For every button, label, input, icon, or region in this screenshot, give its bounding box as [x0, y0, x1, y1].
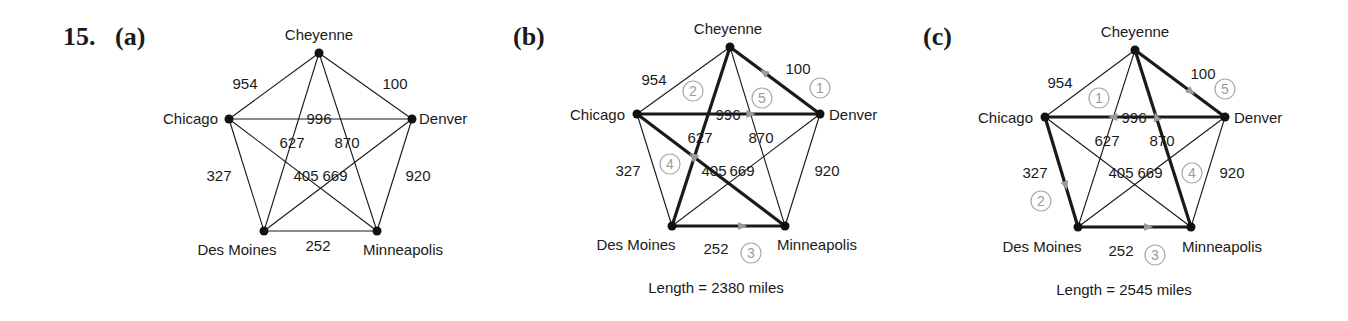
node-des-moines	[1074, 223, 1083, 232]
edge-weight: 870	[1149, 132, 1174, 149]
weight-labels: 954100996627870327920405669252	[206, 75, 430, 254]
edge-weight: 920	[405, 167, 430, 184]
node-chicago	[1041, 113, 1050, 122]
edge-weight: 954	[641, 71, 666, 88]
node-label-des-moines: Des Moines	[596, 236, 675, 253]
edge-weight: 996	[1121, 109, 1146, 126]
node-des-moines	[668, 222, 677, 231]
step-number: 4	[666, 156, 674, 172]
step-number: 2	[689, 83, 697, 99]
node-label-chicago: Chicago	[978, 109, 1033, 126]
nodes: CheyenneChicagoDenverDes MoinesMinneapol…	[163, 26, 467, 258]
node-chicago	[633, 110, 642, 119]
edge-weight: 669	[729, 162, 754, 179]
edge-weight: 920	[1219, 164, 1244, 181]
edge-weight: 669	[322, 167, 347, 184]
edge-weight: 870	[334, 134, 359, 151]
node-label-chicago: Chicago	[570, 106, 625, 123]
edge-cheyenne-denver	[1135, 50, 1225, 117]
tour-arrows	[1060, 86, 1197, 231]
node-minneapolis	[1187, 223, 1196, 232]
edge-weight: 870	[748, 129, 773, 146]
node-cheyenne	[315, 49, 324, 58]
step-number: 5	[758, 90, 766, 106]
step-number: 2	[1037, 193, 1045, 209]
edge-weight: 252	[305, 237, 330, 254]
edge-weight: 405	[1108, 164, 1133, 181]
node-label-cheyenne: Cheyenne	[1101, 23, 1169, 40]
edge-weight: 627	[279, 134, 304, 151]
edge-weight: 996	[715, 106, 740, 123]
node-cheyenne	[1131, 46, 1140, 55]
node-label-denver: Denver	[419, 110, 467, 127]
node-label-cheyenne: Cheyenne	[285, 26, 353, 43]
tour-length: Length = 2380 miles	[648, 279, 784, 296]
edge-chicago-des-moines	[1045, 117, 1078, 227]
node-label-denver: Denver	[1234, 109, 1282, 126]
nodes: CheyenneChicagoDenverDes MoinesMinneapol…	[978, 23, 1282, 255]
step-number: 5	[1221, 81, 1229, 97]
edge-weight: 996	[306, 110, 331, 127]
graph-figure: 15. (a)954100996627870327920405669252Che…	[0, 0, 1348, 321]
edge-weight: 627	[687, 129, 712, 146]
node-minneapolis	[781, 222, 790, 231]
problem-number: 15.	[63, 22, 96, 51]
edge-weight: 252	[703, 240, 728, 257]
node-label-minneapolis: Minneapolis	[1182, 238, 1262, 255]
node-label-denver: Denver	[829, 106, 877, 123]
node-label-minneapolis: Minneapolis	[363, 241, 443, 258]
node-minneapolis	[373, 227, 382, 236]
edge-weight: 405	[701, 162, 726, 179]
step-number: 3	[1151, 247, 1159, 263]
edge-weight: 100	[785, 60, 810, 77]
edge-chicago-des-moines	[229, 119, 264, 231]
edge-weight: 100	[382, 75, 407, 92]
edge-weight: 954	[232, 75, 257, 92]
edge-weight: 627	[1094, 132, 1119, 149]
edge-weight: 954	[1047, 74, 1072, 91]
edge-weight: 327	[206, 167, 231, 184]
node-chicago	[225, 115, 234, 124]
edge-weight: 327	[615, 162, 640, 179]
edge-cheyenne-denver	[730, 47, 820, 114]
edge-weight: 100	[1190, 65, 1215, 82]
node-label-des-moines: Des Moines	[197, 241, 276, 258]
arrow-icon	[1144, 223, 1153, 231]
edge-weight: 669	[1137, 164, 1162, 181]
edge-weight: 252	[1108, 242, 1133, 259]
panel-label: (c)	[923, 22, 952, 51]
panel-a: (a)954100996627870327920405669252Cheyenn…	[115, 22, 467, 258]
node-label-chicago: Chicago	[163, 110, 218, 127]
step-number: 4	[1188, 165, 1196, 181]
node-cheyenne	[726, 43, 735, 52]
node-label-cheyenne: Cheyenne	[694, 20, 762, 37]
node-denver	[816, 110, 825, 119]
step-number: 1	[816, 80, 824, 96]
node-denver	[1221, 113, 1230, 122]
step-number: 1	[1095, 90, 1103, 106]
step-number: 3	[747, 245, 755, 261]
panel-b: (b)954100996627870327920405669252Cheyenn…	[513, 20, 877, 296]
edge-weight: 327	[1022, 164, 1047, 181]
panel-c: (c)954100996627870327920405669252Cheyenn…	[923, 22, 1282, 298]
tour-length: Length = 2545 miles	[1056, 281, 1192, 298]
node-denver	[408, 115, 417, 124]
arrow-icon	[738, 222, 747, 230]
panel-label: (a)	[115, 22, 145, 51]
node-label-des-moines: Des Moines	[1002, 238, 1081, 255]
panel-label: (b)	[513, 22, 545, 51]
node-des-moines	[260, 227, 269, 236]
nodes: CheyenneChicagoDenverDes MoinesMinneapol…	[570, 20, 877, 253]
edge-weight: 920	[814, 162, 839, 179]
node-label-minneapolis: Minneapolis	[777, 236, 857, 253]
edge-weight: 405	[293, 167, 318, 184]
